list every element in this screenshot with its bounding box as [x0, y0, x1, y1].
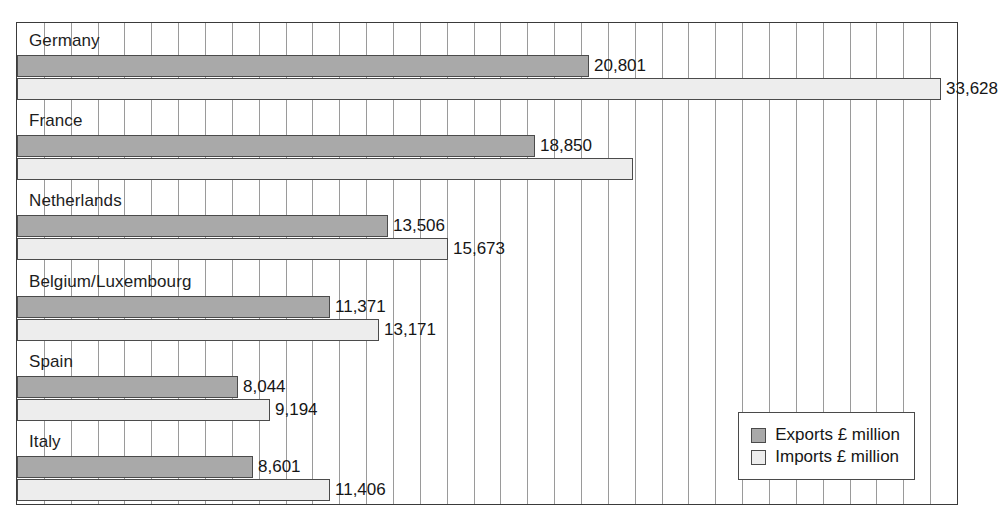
legend-item-exports: Exports £ million: [751, 425, 900, 445]
bar-exports: [17, 296, 330, 318]
bar-imports: [17, 319, 379, 341]
category-label: Belgium/Luxembourg: [29, 272, 191, 292]
legend-label-imports: Imports £ million: [775, 447, 899, 467]
legend-label-exports: Exports £ million: [775, 425, 900, 445]
bar-exports: [17, 55, 589, 77]
bar-group: Netherlands13,50615,673: [17, 183, 957, 263]
legend-item-imports: Imports £ million: [751, 447, 900, 467]
bar-exports: [17, 215, 388, 237]
bar-value-label: 13,171: [384, 320, 436, 340]
cut-off-caption: [0, 0, 973, 5]
category-label: Germany: [29, 31, 100, 51]
bar-value-label: 9,194: [275, 400, 318, 420]
legend-swatch-imports-icon: [751, 450, 766, 465]
category-label: Netherlands: [29, 191, 122, 211]
bar-value-label: 33,628: [946, 79, 998, 99]
bar-imports: [17, 78, 941, 100]
category-label: Spain: [29, 352, 73, 372]
bar-imports: [17, 238, 448, 260]
category-label: France: [29, 111, 83, 131]
bar-group: Germany20,80133,628: [17, 23, 957, 103]
category-label: Italy: [29, 432, 61, 452]
legend-swatch-exports-icon: [751, 428, 766, 443]
bar-exports: [17, 456, 253, 478]
bar-value-label: 8,601: [258, 457, 301, 477]
bar-group: Belgium/Luxembourg11,37113,171: [17, 264, 957, 344]
bar-value-label: 15,673: [453, 239, 505, 259]
bar-group: France18,850: [17, 103, 957, 183]
bar-value-label: 8,044: [243, 377, 286, 397]
bar-value-label: 11,371: [335, 297, 386, 317]
bar-imports: [17, 158, 633, 180]
bar-value-label: 11,406: [335, 480, 386, 500]
plot-area: Germany20,80133,628France18,850Netherlan…: [16, 22, 958, 505]
bar-imports: [17, 399, 270, 421]
bar-value-label: 18,850: [540, 136, 592, 156]
bar-value-label: 13,506: [393, 216, 445, 236]
bar-exports: [17, 135, 535, 157]
bar-value-label: 20,801: [594, 56, 646, 76]
bar-exports: [17, 376, 238, 398]
bar-imports: [17, 479, 330, 501]
chart-legend: Exports £ million Imports £ million: [738, 412, 915, 480]
